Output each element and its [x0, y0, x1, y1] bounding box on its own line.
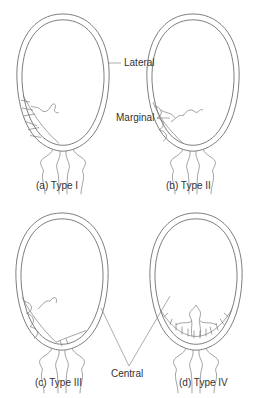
marginal-label: Marginal	[116, 113, 154, 123]
panel-b-caption: (b) Type II	[166, 181, 211, 191]
central-label: Central	[111, 369, 143, 379]
lateral-label: Lateral	[124, 58, 155, 68]
panel-d-drawing	[150, 213, 242, 393]
panel-a-caption: (a) Type I	[36, 181, 78, 191]
central-leader-line-left	[101, 308, 129, 366]
panel-c-drawing	[16, 213, 108, 393]
panel-c-caption: (c) Type III	[35, 378, 82, 388]
panel-a-drawing	[17, 14, 109, 194]
panel-b-drawing	[147, 14, 239, 194]
panel-d-caption: (d) Type IV	[179, 378, 228, 388]
